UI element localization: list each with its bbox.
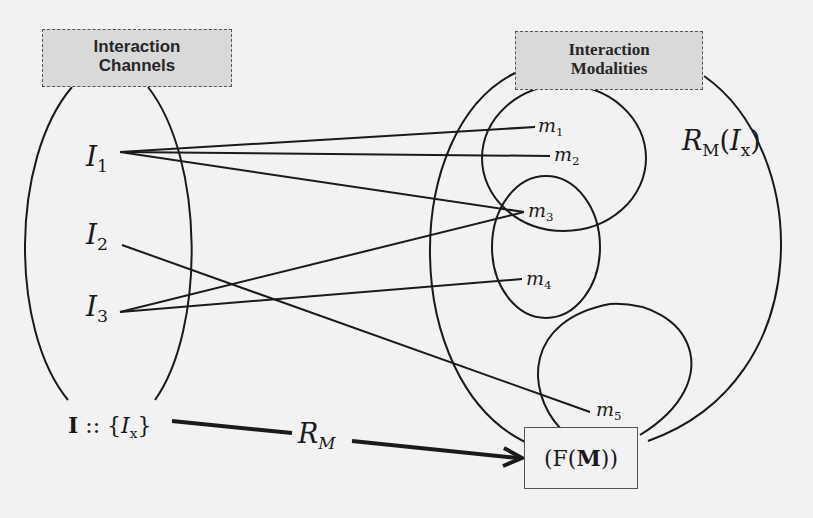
function-open-paren: ( bbox=[544, 446, 553, 471]
line-I1-m2 bbox=[120, 152, 550, 156]
header-interaction-modalities: Interaction Modalities bbox=[515, 31, 703, 90]
function-close-paren: )) bbox=[601, 446, 618, 471]
header-interaction-channels: Interaction Channels bbox=[42, 29, 232, 87]
header-modalities-line2: Modalities bbox=[516, 60, 702, 79]
channel-label-I3: I3 bbox=[86, 290, 108, 326]
modality-label-m4: m4 bbox=[526, 267, 552, 292]
header-channels-line1: Interaction bbox=[43, 38, 231, 57]
channels-ellipse bbox=[25, 87, 192, 400]
line-I1-m1 bbox=[120, 127, 535, 152]
function-arg: M bbox=[576, 445, 600, 471]
channel-set-label: I :: {Ix} bbox=[68, 412, 152, 441]
channel-label-I1: I1 bbox=[86, 140, 108, 176]
header-modalities-line1: Interaction bbox=[516, 41, 702, 60]
group-circle-m3-m4 bbox=[492, 176, 600, 318]
line-I2-m5 bbox=[122, 245, 590, 412]
relation-set-label: RM(Ix) bbox=[682, 125, 761, 160]
modality-label-m3: m3 bbox=[528, 199, 554, 224]
relation-label: RM bbox=[298, 418, 335, 453]
header-channels-line2: Channels bbox=[43, 57, 231, 76]
connection-lines bbox=[120, 127, 590, 412]
line-I3-m3 bbox=[120, 212, 524, 312]
function-name: F( bbox=[553, 446, 577, 471]
modality-label-m5: m5 bbox=[596, 398, 622, 423]
line-I3-m4 bbox=[120, 279, 522, 312]
function-box: (F(M)) bbox=[524, 427, 638, 489]
modality-label-m2: m2 bbox=[554, 143, 580, 168]
relation-arrow bbox=[172, 421, 522, 466]
modality-label-m1: m1 bbox=[538, 114, 564, 139]
channel-label-I2: I2 bbox=[86, 218, 108, 254]
line-I1-m3 bbox=[120, 152, 524, 212]
